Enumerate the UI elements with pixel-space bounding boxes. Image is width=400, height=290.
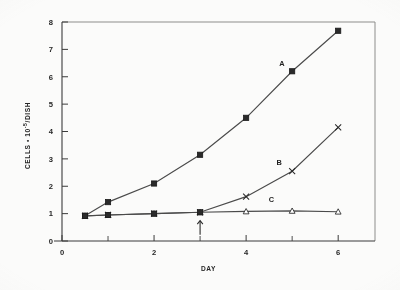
y-tick-label: 6 <box>49 73 53 82</box>
y-axis-title: CELLS • 10-5/DISH <box>22 102 31 169</box>
x-tick-label: 2 <box>152 248 156 257</box>
growth-curve-chart: 0123456780246DAYCELLS • 10-5/DISHABC <box>0 0 400 290</box>
x-tick-label: 0 <box>60 248 64 257</box>
series-label-C: C <box>269 195 275 204</box>
series-label-A: A <box>279 59 285 68</box>
series-marker-A <box>244 115 249 120</box>
series-label-B: B <box>277 158 282 167</box>
y-axis-title-text: CELLS • 10-5/DISH <box>22 102 31 169</box>
series-marker-A <box>197 152 202 157</box>
y-tick-label: 2 <box>49 182 53 191</box>
plateau-marker <box>82 213 87 218</box>
y-tick-label: 7 <box>49 45 53 54</box>
series-marker-B <box>289 168 295 174</box>
plateau-marker <box>151 211 156 216</box>
y-tick-label: 4 <box>49 127 54 136</box>
series-line-C <box>85 211 338 216</box>
y-tick-label: 8 <box>49 18 53 27</box>
series-line-A <box>85 31 338 216</box>
y-tick-label: 3 <box>49 155 53 164</box>
y-tick-label: 5 <box>49 100 54 109</box>
series-line-B <box>85 127 338 215</box>
y-tick-label: 1 <box>49 209 54 218</box>
series-marker-B <box>335 124 341 130</box>
x-tick-label: 4 <box>244 248 249 257</box>
series-marker-A <box>290 69 295 74</box>
series-marker-A <box>105 200 110 205</box>
series-marker-A <box>151 181 156 186</box>
x-axis-title: DAY <box>201 265 216 272</box>
x-tick-label: 6 <box>336 248 340 257</box>
series-marker-A <box>336 28 341 33</box>
plateau-marker <box>105 212 110 217</box>
y-tick-label: 0 <box>49 237 53 246</box>
figure-plate: 0123456780246DAYCELLS • 10-5/DISHABC <box>0 0 400 290</box>
series-marker-B <box>243 194 249 200</box>
plateau-marker <box>197 210 202 215</box>
